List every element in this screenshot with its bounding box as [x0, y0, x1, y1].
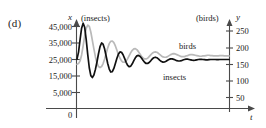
x-axis-origin-label: 0	[68, 111, 72, 120]
y-left-tick-label-4: 5,000	[53, 88, 72, 97]
y-axis-right-unit-label: (birds)	[196, 14, 219, 23]
y-right-tick-label-2: 150	[236, 60, 249, 69]
y-right-tick-label-0: 250	[236, 27, 249, 36]
y-right-tick-label-4: 50	[236, 93, 245, 102]
chart-canvas	[0, 0, 266, 128]
series-annotation-birds: birds	[179, 42, 196, 51]
y-right-tick-label-1: 200	[236, 44, 249, 53]
y-left-tick-label-1: 35,000	[49, 39, 72, 48]
y-right-tick-label-3: 100	[236, 77, 249, 86]
y-left-tick-label-2: 25,000	[49, 55, 72, 64]
y-left-tick-label-3: 15,000	[49, 72, 72, 81]
x-axis-label: t	[250, 113, 253, 122]
y-axis-right-arrowhead	[227, 19, 233, 26]
figure-panel: (d) 45,000 35	[0, 0, 266, 128]
y-axis-right-variable: y	[236, 13, 240, 22]
y-left-tick-label-0: 45,000	[49, 22, 72, 31]
x-axis-arrowhead	[248, 106, 255, 112]
series-line-insects	[77, 23, 229, 77]
series-annotation-insects: insects	[163, 73, 186, 82]
y-axis-left-variable: x	[68, 13, 72, 22]
y-axis-left-unit-label: (insects)	[81, 14, 110, 23]
y-axis-left-arrowhead	[74, 19, 80, 26]
